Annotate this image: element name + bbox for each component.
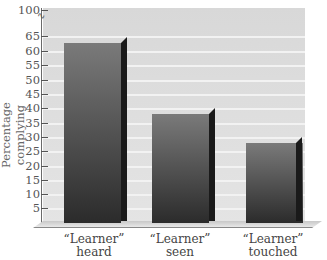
tick-label: 100 [4, 4, 40, 16]
x-label-line: touched [233, 246, 313, 259]
tick [41, 36, 48, 37]
tick [41, 194, 48, 195]
tick-label: 55 [4, 59, 40, 71]
tick [41, 80, 48, 81]
tick [41, 65, 48, 66]
tick [41, 51, 48, 52]
y-axis [41, 8, 42, 225]
tick [41, 166, 48, 167]
tick-label: 65 [4, 30, 40, 42]
x-label-seen: “Learner” seen [140, 233, 220, 259]
bar-heard [64, 43, 121, 223]
tick [41, 10, 48, 11]
bar-touched-side [296, 143, 302, 221]
x-label-line: seen [140, 246, 220, 259]
bar-seen [152, 114, 209, 223]
tick [41, 108, 48, 109]
x-label-heard: “Learner” heard [54, 233, 134, 259]
y-axis-label: Percentage complying [0, 80, 27, 190]
tick [41, 180, 48, 181]
x-label-touched: “Learner” touched [233, 233, 313, 259]
bar-heard-side [121, 43, 127, 221]
tick [41, 94, 48, 95]
x-label-line: heard [54, 246, 134, 259]
tick-label: 60 [4, 45, 40, 57]
gridline [43, 36, 305, 38]
tick [41, 137, 48, 138]
tick [41, 208, 48, 209]
tick-label: 5 [4, 202, 40, 214]
tick [41, 151, 48, 152]
bar-seen-side [209, 114, 215, 221]
bar-touched [246, 143, 303, 223]
tick [41, 123, 48, 124]
